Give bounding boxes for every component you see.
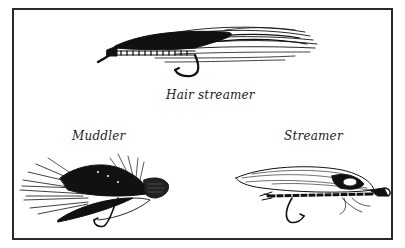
- streamer-illustration: [232, 160, 392, 225]
- muddler-caption: Muddler: [72, 129, 125, 143]
- hair-streamer-caption: Hair streamer: [166, 88, 255, 102]
- streamer-caption: Streamer: [284, 129, 343, 143]
- muddler-illustration: [18, 150, 183, 230]
- hair-streamer-illustration: [95, 18, 320, 78]
